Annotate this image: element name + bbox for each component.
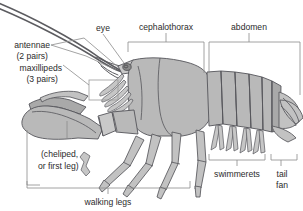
label-antennae: antennae bbox=[14, 40, 50, 50]
label-eye: eye bbox=[96, 23, 110, 33]
label-walking-legs: walking legs bbox=[84, 197, 132, 207]
second-cheliped-claw bbox=[80, 152, 90, 176]
bracket-cheliped bbox=[27, 130, 40, 185]
cheliped-group bbox=[22, 91, 138, 139]
label-swimmerets: swimmerets bbox=[214, 169, 260, 179]
crayfish-anatomy-figure: eye cephalothorax abdomen antennae (2 pa… bbox=[0, 0, 303, 211]
label-tail: tail bbox=[277, 169, 288, 179]
swimmeret-2b bbox=[232, 126, 238, 151]
abdomen-segment-2 bbox=[221, 71, 237, 126]
label-maxillipeds-pairs: (3 pairs) bbox=[26, 74, 58, 84]
leader-eye bbox=[103, 34, 124, 63]
label-maxillipeds: maxillipeds bbox=[19, 63, 62, 73]
leader-lines bbox=[51, 34, 124, 85]
swimmeret-3b bbox=[246, 128, 252, 152]
abdomen-segment-3 bbox=[235, 72, 251, 128]
leader-maxillipeds bbox=[63, 65, 89, 85]
label-cheliped-first-leg: or first leg) bbox=[38, 161, 79, 171]
second-cheliped-tip bbox=[80, 152, 90, 176]
swimmeret-1b bbox=[218, 125, 224, 150]
bracket-swimmerets bbox=[209, 154, 265, 160]
diagram-canvas: eye cephalothorax abdomen antennae (2 pa… bbox=[0, 0, 303, 211]
walking-leg-4 bbox=[160, 132, 181, 190]
label-fan: fan bbox=[276, 180, 288, 190]
swimmeret-4b bbox=[259, 130, 265, 153]
cheliped-merus bbox=[112, 110, 138, 134]
walking-leg-5 bbox=[195, 130, 206, 189]
label-antennae-pairs: (2 pairs) bbox=[16, 51, 48, 61]
walking-leg-4-tip bbox=[157, 187, 166, 199]
label-abdomen: abdomen bbox=[231, 22, 267, 32]
abdomen-segments bbox=[207, 71, 281, 132]
abdomen-segment-5 bbox=[262, 77, 272, 132]
abdomen-segment-1 bbox=[207, 71, 223, 126]
eye-highlight bbox=[124, 65, 128, 68]
walking-leg-5-tip bbox=[195, 186, 201, 197]
cheliped-palm bbox=[22, 106, 103, 139]
bracket-tail-fan bbox=[271, 154, 297, 160]
label-cephalothorax: cephalothorax bbox=[139, 22, 194, 32]
walking-legs-group bbox=[99, 130, 206, 199]
carapace bbox=[128, 58, 210, 136]
label-cheliped: (cheliped, bbox=[41, 149, 78, 159]
